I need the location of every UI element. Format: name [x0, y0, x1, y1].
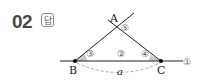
marker-2: ②: [117, 49, 125, 59]
marker-1: ①: [183, 57, 191, 67]
label-b: B: [69, 64, 77, 77]
line-ba: [75, 13, 134, 61]
marker-5: ⑤: [121, 23, 129, 33]
line-ca: [108, 20, 161, 61]
geometry-figure: A B C a ① ② ③ ④ ⑤: [0, 0, 197, 81]
label-length-a: a: [117, 66, 123, 77]
label-c: C: [157, 64, 165, 77]
point-c: [159, 59, 163, 63]
marker-3: ③: [86, 49, 94, 59]
point-b: [73, 59, 77, 63]
label-a: A: [109, 12, 119, 25]
marker-4: ④: [141, 49, 149, 59]
